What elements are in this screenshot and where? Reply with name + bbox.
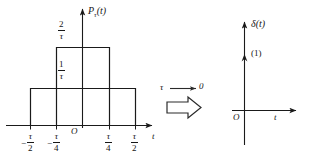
left-plot-axes [6, 9, 152, 128]
x-tick-tau-over-4-numerator: τ [105, 132, 112, 141]
figure-container: Pτ(t) 2 τ 1 τ O − τ 2 − τ 4 τ 4 τ 2 [0, 0, 311, 158]
y-tick-2-over-tau-denominator: τ [58, 32, 65, 41]
minus-sign: − [47, 138, 52, 148]
right-plot-axes [232, 22, 296, 145]
x-tick-tau-over-4-denominator: 4 [105, 144, 112, 153]
y-tick-label-1-over-tau: 1 τ [58, 60, 65, 81]
x-tick-label-tau-over-4: τ 4 [105, 132, 112, 153]
left-y-axis-label: Pτ(t) [88, 6, 106, 19]
right-x-axis-label: t [274, 113, 277, 122]
y-tick-1-over-tau-denominator: τ [58, 72, 65, 81]
x-tick-minus-tau-over-4-numerator: τ [53, 132, 60, 141]
limit-variable-label: τ [160, 83, 163, 92]
left-x-axis-label: t [152, 132, 155, 141]
x-tick-minus-tau-over-2-denominator: 2 [27, 144, 34, 153]
fraction: τ 4 [53, 132, 60, 153]
x-tick-tau-over-2-numerator: τ [131, 132, 138, 141]
right-y-axis-label-arg: (t) [256, 18, 265, 29]
left-origin-label: O [71, 127, 78, 136]
x-tick-minus-tau-over-4-denominator: 4 [53, 144, 60, 153]
y-tick-label-2-over-tau: 2 τ [58, 20, 65, 41]
right-y-axis-label: δ(t) [251, 19, 265, 29]
y-tick-2-over-tau-numerator: 2 [58, 20, 65, 29]
x-tick-tau-over-2-denominator: 2 [131, 144, 138, 153]
minus-sign: − [21, 138, 26, 148]
x-tick-label-minus-tau-over-4: − τ 4 [47, 132, 60, 153]
left-y-axis-label-arg: (t) [97, 5, 106, 16]
fraction: τ 2 [27, 132, 34, 153]
right-origin-label: O [233, 113, 240, 122]
impulse-weight-label: (1) [251, 49, 262, 58]
y-tick-1-over-tau-numerator: 1 [58, 60, 65, 69]
x-tick-label-minus-tau-over-2: − τ 2 [21, 132, 34, 153]
limit-value-label: 0 [199, 82, 204, 91]
x-tick-minus-tau-over-2-numerator: τ [27, 132, 34, 141]
x-tick-label-tau-over-2: τ 2 [131, 132, 138, 153]
block-arrow-icon [167, 97, 201, 118]
